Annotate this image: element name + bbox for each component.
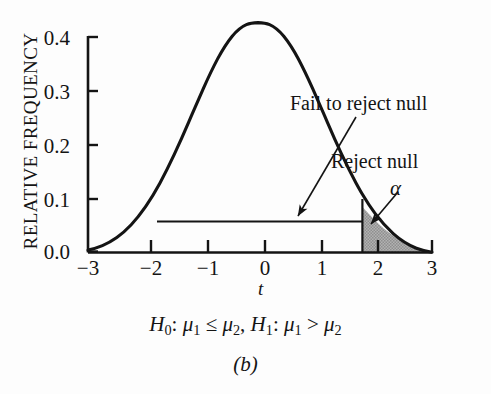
figure-panel-b: RELATIVE FREQUENCY 0.4 0.3 0.2 0.1 0.0 −… <box>0 0 491 394</box>
distribution-curve <box>88 23 432 253</box>
plot-canvas <box>0 0 491 394</box>
leader-arrow-alpha <box>371 192 398 224</box>
rejection-region-shading <box>362 207 432 253</box>
